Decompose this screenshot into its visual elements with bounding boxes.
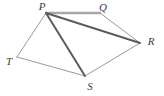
figure-background xyxy=(0,0,164,96)
vertex-label-s: S xyxy=(87,80,93,92)
vertex-label-r: R xyxy=(147,35,155,47)
vertex-label-p: P xyxy=(38,0,46,12)
geometry-figure: PQRST xyxy=(0,0,164,96)
vertex-label-q: Q xyxy=(99,1,107,13)
vertex-label-t: T xyxy=(6,55,13,67)
figure-canvas: PQRST xyxy=(0,0,164,96)
